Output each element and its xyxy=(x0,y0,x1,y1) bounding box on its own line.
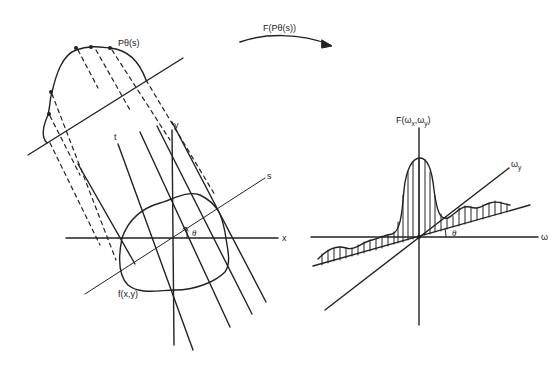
theta-arc-right xyxy=(445,229,446,237)
projection-label: Pθ(s) xyxy=(118,38,140,48)
function-label: F(ωx,ωy) xyxy=(396,115,431,128)
projection-axis xyxy=(28,58,183,155)
t-axis-label: t xyxy=(114,132,117,142)
omega-y-axis xyxy=(325,168,509,310)
x-axis-label: x xyxy=(282,233,287,243)
y-axis-label: y xyxy=(174,120,179,130)
transform-arrow[interactable] xyxy=(240,36,330,45)
s-axis-label: s xyxy=(267,171,272,181)
projection-curve xyxy=(43,47,146,143)
object-label: f(x,y) xyxy=(118,289,138,299)
theta-label-right: θ xyxy=(452,228,457,238)
s-axis xyxy=(85,178,265,294)
omega-x-label: ω xyxy=(541,232,548,242)
slice-profile xyxy=(318,158,510,259)
diagram-canvas: Pθ(s) F(Pθ(s)) y t s x θ f(x,y) F(ωx,ωy)… xyxy=(0,0,553,368)
theta-label-left: θ xyxy=(192,228,197,238)
omega-y-label: ωy xyxy=(511,159,522,172)
arrow-label: F(Pθ(s)) xyxy=(263,23,296,33)
